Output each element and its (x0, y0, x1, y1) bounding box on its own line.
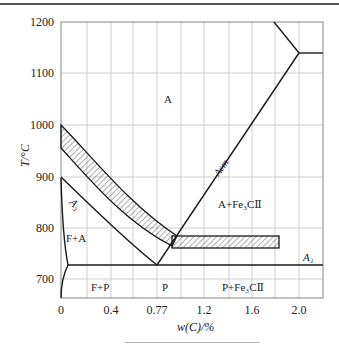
region-austenite: A (164, 93, 172, 105)
y-tick-900: 900 (24, 170, 54, 185)
y-tick-800: 800 (24, 221, 54, 236)
region-pearlite-cementite: P+Fe₃CⅡ (222, 281, 264, 294)
y-axis-title: T/°C (18, 144, 33, 167)
label-a1: A₁ (303, 251, 314, 263)
x-tick-0.77: 0.77 (139, 303, 175, 318)
y-tick-700: 700 (24, 272, 54, 287)
acm-line (157, 53, 299, 265)
grid (61, 22, 323, 298)
x-tick-0: 0 (43, 303, 79, 318)
x-tick-0.4: 0.4 (93, 303, 129, 318)
x-tick-1.6: 1.6 (234, 303, 270, 318)
hardening-band-hypereutectoid (172, 236, 279, 248)
pq-line (61, 265, 68, 298)
region-ferrite-pearlite: F+P (91, 281, 109, 293)
gp-line (61, 178, 68, 265)
region-ferrite-austenite: F+A (66, 232, 86, 244)
caption-rule (125, 342, 260, 343)
x-tick-2.0: 2.0 (281, 303, 317, 318)
region-pearlite: P (162, 281, 168, 293)
y-tick-1100: 1100 (24, 66, 54, 81)
plot-frame (61, 22, 323, 298)
x-tick-1.2: 1.2 (186, 303, 222, 318)
je-line (274, 22, 299, 53)
x-axis-title: w(C)/% (177, 320, 214, 335)
y-tick-1200: 1200 (24, 15, 54, 30)
region-austenite-cementite: A+Fe₃CⅡ (218, 198, 262, 211)
y-tick-1000: 1000 (24, 118, 54, 133)
